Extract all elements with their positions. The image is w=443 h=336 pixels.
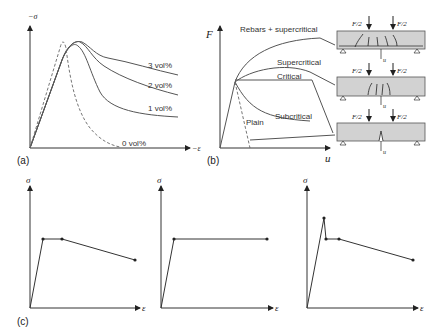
y-axis-label: σ (303, 175, 308, 185)
plot-c2: σ ε (157, 175, 279, 313)
elastic-branch (220, 82, 235, 148)
label-rebars-supercritical: Rebars + supercritical (240, 25, 318, 34)
curve-3vol (30, 42, 178, 148)
panel-label-b: (b) (207, 155, 219, 166)
curve-2vol (30, 42, 178, 148)
plot-c1: σ ε (26, 175, 146, 313)
deflection: u (383, 149, 386, 155)
curve-label-1vol: 1 vol% (148, 104, 172, 113)
deflection: u (383, 57, 386, 63)
label-plain: Plain (246, 118, 264, 127)
panel-b: F u (b) Rebars + supercritical Supercrit… (205, 16, 425, 166)
load-right: F/2 (396, 113, 407, 121)
load-left: F/2 (351, 113, 362, 121)
y-axis-label: σ (26, 175, 31, 185)
x-axis-label: ε (275, 303, 279, 313)
curve-label-2vol: 2 vol% (148, 81, 172, 90)
label-critical: Critical (277, 72, 302, 81)
panel-label-c: (c) (17, 316, 29, 327)
deflection: u (383, 103, 386, 109)
y-axis-label: −σ (28, 12, 38, 21)
load-right: F/2 (396, 67, 407, 75)
x-axis-label: u (325, 152, 331, 164)
beam-2: F/2 F/2 u (337, 63, 425, 109)
curve-plain (235, 82, 250, 148)
load-left: F/2 (351, 67, 362, 75)
y-axis-label: F (205, 28, 213, 40)
label-subcritical: Subcritical (275, 112, 312, 121)
beam-1: F/2 F/2 u (337, 16, 425, 63)
plot-c3: σ ε (303, 175, 424, 313)
y-axis-label: σ (157, 175, 162, 185)
curve-label-0vol: 0 vol% (122, 139, 146, 148)
load-right: F/2 (396, 20, 407, 28)
x-axis-label: ε (420, 303, 424, 313)
panel-c: (c) σ ε σ ε σ ε (17, 175, 424, 327)
x-axis-label: ε (142, 303, 146, 313)
figure: −σ −ε (a) 3 vol% 2 vol% 1 vol% 0 vol% F … (0, 0, 443, 336)
load-left: F/2 (351, 20, 362, 28)
label-supercritical: Supercritical (277, 58, 321, 67)
leader-supercritical (310, 72, 335, 85)
curve-label-3vol: 3 vol% (148, 61, 172, 70)
panel-a: −σ −ε (a) 3 vol% 2 vol% 1 vol% 0 vol% (17, 12, 201, 166)
panel-label-a: (a) (17, 155, 29, 166)
leader-plain (250, 135, 335, 140)
x-axis-label: −ε (192, 144, 201, 153)
leader-rebars (320, 38, 335, 45)
beam-3: F/2 F/2 u (337, 109, 425, 155)
